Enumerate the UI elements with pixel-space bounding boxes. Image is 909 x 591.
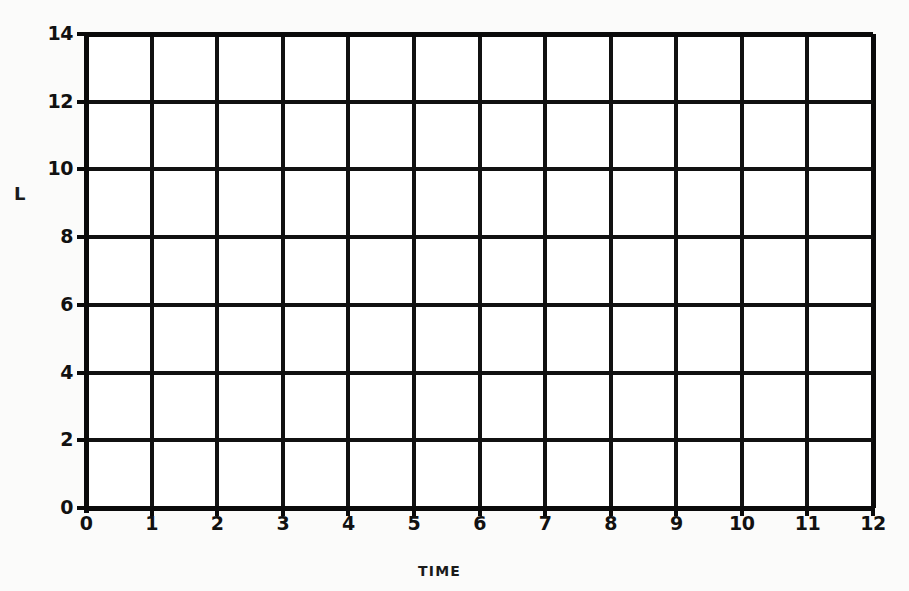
grid-line-horizontal [86,32,873,37]
x-axis-tick-label-text: 12 [860,512,885,534]
x-axis-tick-label-text: 1 [145,512,158,534]
x-axis-tick-label-text: 10 [729,512,754,534]
x-axis-tick-label-text: 6 [473,512,486,534]
chart-figure: L TIME 024681012140123456789101112 [0,0,909,591]
grid-line-vertical [215,34,219,508]
x-axis-tick-label: 6 [457,512,503,534]
y-axis-tick-label: 2 [0,428,73,450]
grid-line-horizontal [86,235,873,239]
grid-line-horizontal [86,303,873,307]
y-axis-tick-label: 4 [0,361,73,383]
y-axis-tick-label: 6 [0,293,73,315]
x-axis-tick-label-text: 4 [342,512,355,534]
x-axis-tick-label-text: 3 [276,512,289,534]
grid-line-horizontal [86,100,873,104]
x-axis-tick-label: 8 [588,512,634,534]
grid-line-vertical [412,34,416,508]
y-axis-title: L [14,183,26,204]
y-axis-tick [77,438,86,442]
grid-line-horizontal [86,167,873,171]
y-axis-tick-label-text: 4 [0,361,73,383]
x-axis-tick-label: 2 [194,512,240,534]
x-axis-tick-label: 9 [653,512,699,534]
y-axis-tick-label-text: 10 [0,157,73,179]
y-axis-tick [77,303,86,307]
y-axis-tick [77,371,86,375]
x-axis-tick-label-text: 7 [539,512,552,534]
x-axis-tick-label-text: 9 [670,512,683,534]
x-axis-tick-label: 5 [391,512,437,534]
grid-line-vertical [281,34,285,508]
grid-line-vertical [478,34,482,508]
x-axis-tick-label-text: 0 [80,512,93,534]
grid-line-vertical [871,34,876,508]
x-axis-tick-label-text: 2 [211,512,224,534]
grid-line-horizontal [86,438,873,442]
y-axis-tick-label-text: 14 [0,22,73,44]
x-axis-tick-label: 4 [325,512,371,534]
x-axis-tick-label: 12 [850,512,896,534]
y-axis-tick [77,167,86,171]
x-axis-tick-label: 11 [784,512,830,534]
x-axis-title-text: TIME [418,563,461,579]
y-axis-tick [77,100,86,104]
plot-area [86,34,873,508]
grid-line-vertical [150,34,154,508]
grid-line-vertical [674,34,678,508]
y-axis-tick-label-text: 6 [0,293,73,315]
grid-line-vertical [609,34,613,508]
x-axis-tick-label-text: 5 [408,512,421,534]
x-axis-tick-label-text: 11 [795,512,820,534]
grid-line-vertical [543,34,547,508]
y-axis-tick-label: 8 [0,225,73,247]
y-axis-tick-label: 10 [0,157,73,179]
y-axis-tick-label-text: 8 [0,225,73,247]
x-axis-tick-label: 0 [63,512,109,534]
y-axis-tick [77,235,86,239]
x-axis-tick-label: 1 [129,512,175,534]
x-axis-tick-label-text: 8 [604,512,617,534]
y-axis-tick [77,32,86,36]
x-axis-tick-label: 10 [719,512,765,534]
y-axis-tick-label-text: 2 [0,428,73,450]
y-axis-tick-label: 14 [0,22,73,44]
y-axis-tick-label-text: 12 [0,90,73,112]
y-axis-tick-label: 12 [0,90,73,112]
grid-line-vertical [346,34,350,508]
grid-line-horizontal [86,371,873,375]
grid-line-vertical [740,34,744,508]
x-axis-tick-label: 7 [522,512,568,534]
grid-line-vertical [805,34,809,508]
x-axis-tick-label: 3 [260,512,306,534]
y-axis-tick [77,506,86,510]
x-axis-title: TIME [0,563,909,579]
